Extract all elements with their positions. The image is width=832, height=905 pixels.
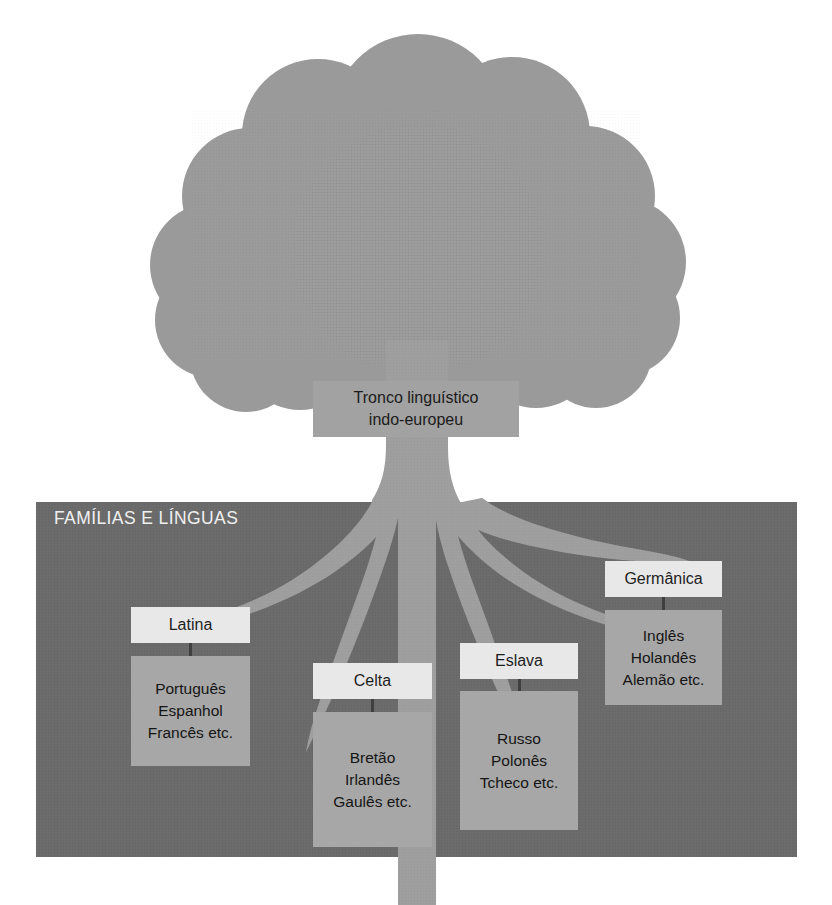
- family-group-latina: Latina Português Espanhol Francês etc.: [131, 607, 250, 766]
- family-stem-germanica: [662, 597, 665, 610]
- family-group-eslava: Eslava Russo Polonês Tcheco etc.: [460, 643, 578, 830]
- family-name-eslava[interactable]: Eslava: [460, 643, 578, 679]
- trunk-label-line1: Tronco linguístico: [354, 387, 479, 409]
- language-item: Português: [155, 678, 226, 700]
- trunk-label-box: Tronco linguístico indo-europeu: [313, 381, 519, 437]
- family-group-celta: Celta Bretão Irlandês Gaulês etc.: [313, 663, 432, 847]
- language-item: Gaulês etc.: [333, 791, 411, 813]
- language-tree-figure: Tronco linguístico indo-europeu FAMÍLIAS…: [0, 0, 832, 905]
- family-languages-celta: Bretão Irlandês Gaulês etc.: [313, 712, 432, 847]
- language-item: Bretão: [350, 747, 396, 769]
- family-stem-celta: [371, 699, 374, 712]
- language-item: Inglês: [643, 625, 684, 647]
- family-name-celta[interactable]: Celta: [313, 663, 432, 699]
- family-name-latina[interactable]: Latina: [131, 607, 250, 643]
- language-item: Alemão etc.: [623, 669, 705, 691]
- language-item: Irlandês: [345, 769, 400, 791]
- family-stem-latina: [189, 643, 192, 656]
- language-item: Francês etc.: [148, 722, 233, 744]
- family-name-germanica[interactable]: Germânica: [605, 561, 722, 597]
- language-item: Holandês: [631, 647, 697, 669]
- family-languages-eslava: Russo Polonês Tcheco etc.: [460, 691, 578, 830]
- language-item: Espanhol: [158, 700, 223, 722]
- language-item: Russo: [497, 728, 541, 750]
- family-group-germanica: Germânica Inglês Holandês Alemão etc.: [605, 561, 722, 705]
- language-item: Polonês: [491, 750, 547, 772]
- trunk-label-line2: indo-europeu: [369, 409, 463, 431]
- language-item: Tcheco etc.: [480, 772, 558, 794]
- family-languages-latina: Português Espanhol Francês etc.: [131, 656, 250, 766]
- soil-section-title: FAMÍLIAS E LÍNGUAS: [54, 508, 238, 529]
- family-stem-eslava: [518, 679, 521, 691]
- family-languages-germanica: Inglês Holandês Alemão etc.: [605, 610, 722, 705]
